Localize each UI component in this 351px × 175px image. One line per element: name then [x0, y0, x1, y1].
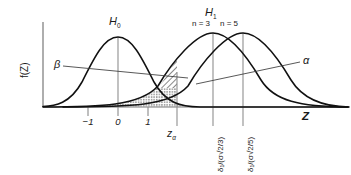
n3-label: n = 3 [192, 20, 210, 28]
delta-n5-label: δ₁/(σ√2/5) [247, 137, 255, 172]
n5-label: n = 5 [220, 20, 238, 28]
z-alpha-label: zα [167, 128, 176, 142]
chart-canvas [0, 0, 351, 175]
annotation-leader-lines [63, 62, 300, 84]
delta-n3-label: δ₁/(σ√2/3) [217, 137, 225, 172]
x-tick-label-neg1: −1 [80, 117, 96, 127]
y-axis-label: f(Z) [20, 62, 30, 78]
x-tick-label-1: 1 [140, 117, 156, 127]
alpha-leader-line [196, 62, 300, 84]
alpha-label: α [303, 55, 309, 66]
beta-shaded-region [0, 0, 351, 175]
beta-label: β [54, 59, 60, 70]
x-tick-label-0: 0 [110, 117, 126, 127]
distribution-curves [43, 33, 349, 107]
vertical-marker-lines [118, 33, 243, 126]
h0-curve [43, 37, 348, 107]
h0-label: H0 [109, 16, 121, 30]
statistical-power-chart: f(Z) Z H0 H1 n = 3 n = 5 β α −1 0 1 zα δ… [0, 0, 351, 175]
x-axis-ticks [88, 107, 148, 116]
x-axis-label: Z [302, 111, 309, 123]
